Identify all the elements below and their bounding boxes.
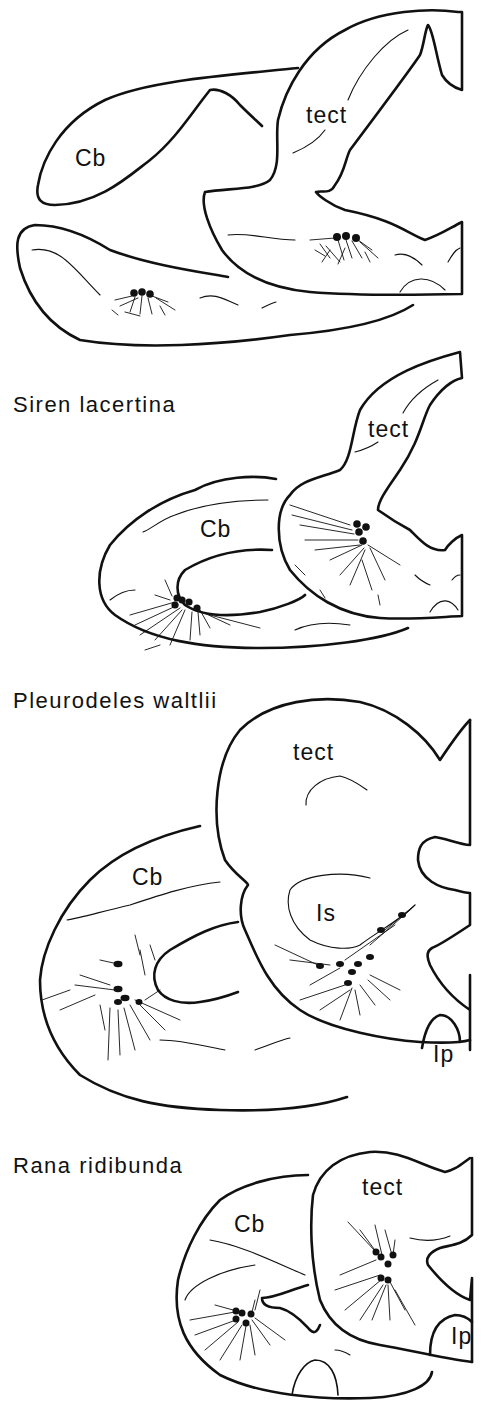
tectum-label: tect — [368, 418, 409, 441]
species-label: Rana ridibunda — [13, 1155, 183, 1177]
interpeduncular-label: Ip — [433, 1043, 454, 1066]
panel-4-drawing — [177, 1152, 472, 1399]
species-label: Pleurodeles waltlii — [13, 690, 218, 712]
panel-1-drawing — [17, 10, 462, 345]
neuron-cluster — [112, 232, 378, 316]
interpeduncular-label: Ip — [451, 1325, 472, 1348]
isthmic-nucleus-label: Is — [316, 902, 336, 925]
tectum-label: tect — [306, 104, 347, 127]
cerebellum-label: Cb — [200, 518, 231, 541]
cerebellum-label: Cb — [132, 866, 163, 889]
species-label: Siren lacertina — [13, 394, 176, 416]
tectum-label: tect — [362, 1176, 403, 1199]
tectum-label: tect — [293, 741, 334, 764]
neuron-cluster — [130, 505, 400, 650]
cerebellum-label: Cb — [234, 1213, 265, 1236]
cerebellum-label: Cb — [75, 147, 106, 170]
neuron-cluster — [42, 905, 415, 1060]
panel-3-drawing — [40, 699, 470, 1110]
